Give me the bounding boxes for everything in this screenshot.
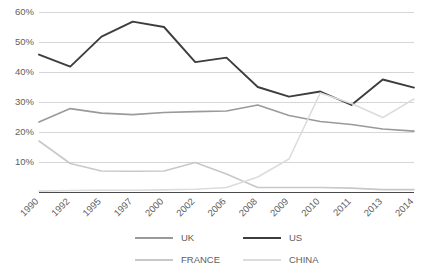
y-axis-tick-label: 60% (15, 6, 35, 17)
series-line-uk (39, 105, 414, 131)
x-axis-labels-group: 1990199219951997200020022006200820092010… (18, 196, 416, 219)
x-axis-tick-label: 2009 (268, 196, 291, 219)
x-axis-tick-label: 2008 (236, 196, 259, 219)
series-group (39, 22, 414, 192)
x-axis-tick-label: 2013 (361, 196, 384, 219)
legend-label: UK (181, 232, 195, 243)
legend-label: FRANCE (181, 254, 220, 265)
legend-item-france[interactable]: FRANCE (135, 254, 220, 265)
gridlines-group (39, 13, 414, 163)
x-axis-tick-label: 2006 (205, 196, 228, 219)
legend-item-us[interactable]: US (243, 232, 302, 243)
x-axis-tick-label: 1990 (18, 196, 41, 219)
legend-item-china[interactable]: CHINA (243, 254, 319, 265)
y-axis-tick-label: 50% (15, 36, 35, 47)
x-axis-tick-label: 1995 (80, 196, 103, 219)
legend-label: US (289, 232, 302, 243)
x-axis-tick-label: 1997 (111, 196, 134, 219)
x-axis-tick-label: 2000 (143, 196, 166, 219)
series-line-us (39, 22, 414, 105)
line-chart: 10%20%30%40%50%60% 199019921995199720002… (0, 0, 422, 275)
x-axis-tick-label: 1992 (49, 196, 72, 219)
x-axis-tick-label: 2014 (393, 196, 416, 219)
x-axis-tick-label: 2002 (174, 196, 197, 219)
y-axis-tick-label: 30% (15, 96, 35, 107)
x-axis-tick-label: 2011 (331, 196, 353, 218)
y-axis-tick-label: 20% (15, 126, 35, 137)
chart-canvas: 10%20%30%40%50%60% 199019921995199720002… (0, 0, 422, 275)
series-line-france (39, 141, 414, 190)
legend-label: CHINA (289, 254, 319, 265)
y-axis-tick-label: 10% (15, 156, 35, 167)
legend-item-uk[interactable]: UK (135, 232, 195, 243)
x-axis-tick-label: 2010 (299, 196, 322, 219)
y-axis-tick-label: 40% (15, 66, 35, 77)
series-line-china (39, 93, 414, 191)
y-axis-labels-group: 10%20%30%40%50%60% (15, 6, 35, 167)
legend: UKUSFRANCECHINA (135, 232, 319, 265)
